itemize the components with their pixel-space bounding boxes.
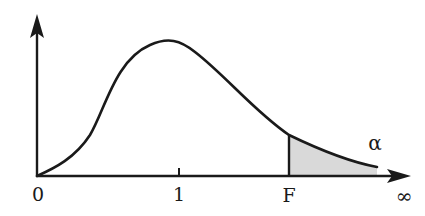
label-one: 1 (173, 183, 185, 205)
label-infinity: ∞ (396, 184, 413, 208)
f-distribution-chart: 0 1 F ∞ α (0, 0, 425, 216)
label-f: F (282, 184, 295, 206)
label-origin: 0 (32, 183, 44, 205)
chart-svg: 0 1 F ∞ α (0, 0, 425, 216)
label-alpha: α (368, 131, 382, 155)
